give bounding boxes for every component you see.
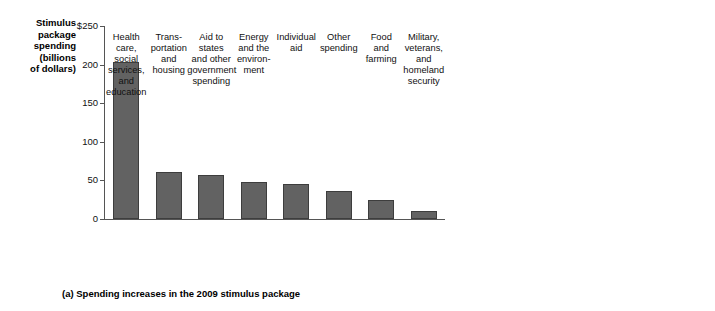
y-tick-label: 0 (93, 214, 98, 224)
y-tick-mark (100, 26, 105, 27)
panel-spending-increases: Stimulus package spending (billions of d… (0, 0, 455, 311)
y-tick-label: 200 (82, 60, 98, 70)
panel-tax-cuts: Tax cuts (billions of dollars) 050100150… (455, 0, 715, 311)
y-tick-label: 100 (82, 137, 98, 147)
x-tick-label: Food and farming (357, 32, 405, 65)
caption-panel-a: (a) Spending increases in the 2009 stimu… (62, 288, 300, 299)
stimulus-package-figure: Stimulus package spending (billions of d… (0, 0, 715, 311)
y-tick-label: 50 (87, 175, 98, 185)
bar (241, 182, 267, 219)
x-tick-label: Energy and the environ- ment (230, 32, 278, 76)
x-tick-label: Trans- portation and housing (145, 32, 193, 76)
x-tick-label: Individual aid (272, 32, 320, 54)
y-tick-mark (100, 142, 105, 143)
y-tick-label: $250 (77, 21, 98, 31)
y-tick-mark (100, 180, 105, 181)
y-tick-mark (100, 103, 105, 104)
bar (411, 211, 437, 219)
bar (283, 184, 309, 219)
x-tick-label: Military, veterans, and homeland securit… (400, 32, 448, 87)
plot-area-spending: 050100150200$250 Health care, social ser… (104, 26, 445, 220)
x-tick-label: Aid to states and other government spend… (187, 32, 235, 87)
y-tick-mark (100, 219, 105, 220)
y-axis-title-spending: Stimulus package spending (billions of d… (2, 17, 76, 75)
y-tick-label: 150 (82, 98, 98, 108)
bar (368, 200, 394, 219)
x-tick-label: Health care, social services, and educat… (102, 32, 150, 98)
bar (156, 172, 182, 219)
x-tick-label: Other spending (315, 32, 363, 54)
bar (326, 191, 352, 219)
bar (198, 175, 224, 219)
